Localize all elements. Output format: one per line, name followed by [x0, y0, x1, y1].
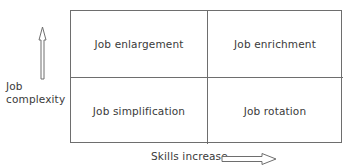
quadrant-top-right-label: Job enrichment [234, 38, 316, 50]
job-design-matrix-figure: Job complexity Job enlargement Job enric… [0, 0, 359, 168]
quadrant-bottom-left: Job simplification [71, 78, 207, 144]
quadrant-top-left-label: Job enlargement [95, 38, 184, 50]
arrow-up-outline-icon [35, 26, 50, 80]
quadrant-top-left: Job enlargement [71, 11, 207, 77]
y-axis-label-line2: complexity [6, 93, 72, 106]
y-axis-label-line1: Job [6, 80, 72, 93]
quadrant-bottom-left-label: Job simplification [93, 105, 185, 117]
quadrant-bottom-right-label: Job rotation [244, 105, 307, 117]
matrix-box: Job enlargement Job enrichment Job simpl… [70, 10, 342, 143]
x-axis-label: Skills increase [151, 150, 228, 162]
quadrant-bottom-right: Job rotation [207, 78, 343, 144]
arrow-right-outline-icon [221, 151, 277, 165]
y-axis-label: Job complexity [6, 80, 72, 105]
quadrant-top-right: Job enrichment [207, 11, 343, 77]
